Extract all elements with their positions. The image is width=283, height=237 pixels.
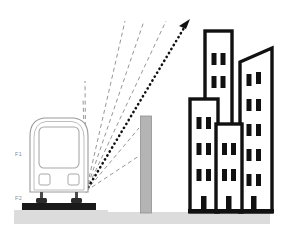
ray-reflect-a [86, 128, 139, 191]
windshield [39, 127, 79, 168]
base-label: F2 [15, 195, 22, 201]
ray-reflect-b [86, 156, 139, 191]
propagation-diagram: F1 F2 [0, 0, 283, 237]
window [206, 169, 211, 181]
window [206, 117, 211, 129]
ray-dashed-5 [86, 21, 166, 191]
window [222, 169, 227, 181]
window [256, 99, 261, 111]
rail-base [22, 203, 96, 210]
gray-wall-pillar [141, 116, 152, 213]
ray-dashed-4 [86, 21, 144, 191]
window [222, 143, 227, 155]
antenna-label: F1 [15, 151, 22, 157]
window [256, 124, 261, 136]
window [247, 149, 252, 161]
building-right-slanted [240, 48, 272, 212]
ground-left [14, 210, 108, 224]
window [197, 117, 202, 129]
window [212, 76, 217, 88]
window [231, 169, 236, 181]
window [197, 143, 202, 155]
bogie-left [36, 192, 47, 203]
headlight-right [68, 174, 79, 185]
window [256, 174, 261, 186]
window [231, 143, 236, 155]
building-cluster [188, 31, 274, 213]
window [221, 53, 226, 65]
window [256, 149, 261, 161]
ray-bundle-dashed [83, 21, 166, 191]
window [247, 124, 252, 136]
ray-dotted-main [86, 19, 190, 191]
building-center-front [216, 124, 242, 212]
building-base-plinth [188, 209, 274, 213]
window [247, 99, 252, 111]
building-left-mid [190, 99, 218, 212]
window [247, 74, 252, 86]
window [247, 174, 252, 186]
arrowhead-up-right [179, 19, 190, 29]
window [206, 143, 211, 155]
bogie-right [71, 192, 82, 203]
window [256, 72, 261, 84]
ray-dashed-3 [86, 21, 125, 191]
ground-right [104, 212, 270, 224]
window [197, 169, 202, 181]
train-front-view [22, 118, 96, 210]
window [221, 76, 226, 88]
headlight-left [39, 174, 50, 185]
window [212, 53, 217, 65]
